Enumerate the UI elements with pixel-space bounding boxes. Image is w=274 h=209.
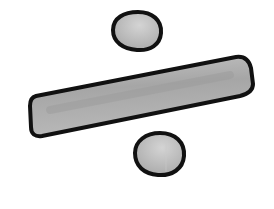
division-symbol-illustration [0, 0, 274, 209]
division-bar [30, 57, 253, 136]
bottom-dot [135, 133, 184, 175]
top-dot [113, 12, 161, 50]
